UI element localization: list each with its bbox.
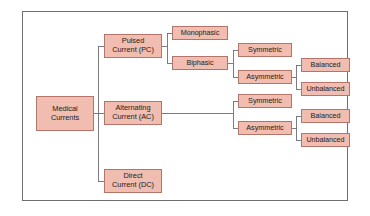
node-monophasic[interactable]: Monophasic: [172, 26, 228, 40]
diagram-canvas: Medical Currents Pulsed Current (PC) Alt…: [0, 0, 370, 216]
node-direct-current[interactable]: Direct Current (DC): [104, 169, 162, 193]
node-pc-asymmetric[interactable]: Asymmetric: [238, 70, 292, 84]
node-ac-asymmetric[interactable]: Asymmetric: [238, 121, 292, 135]
node-ac-symmetric[interactable]: Symmetric: [238, 94, 292, 108]
node-alternating-current[interactable]: Alternating Current (AC): [104, 101, 162, 125]
node-pulsed-current[interactable]: Pulsed Current (PC): [104, 34, 162, 58]
node-ac-balanced[interactable]: Balanced: [301, 109, 350, 123]
node-pc-unbalanced[interactable]: Unbalanced: [301, 82, 350, 96]
node-medical-currents[interactable]: Medical Currents: [36, 96, 94, 131]
node-biphasic[interactable]: Biphasic: [172, 56, 228, 70]
node-pc-symmetric[interactable]: Symmetric: [238, 43, 292, 57]
node-pc-balanced[interactable]: Balanced: [301, 58, 350, 72]
node-ac-unbalanced[interactable]: Unbalanced: [301, 133, 350, 147]
